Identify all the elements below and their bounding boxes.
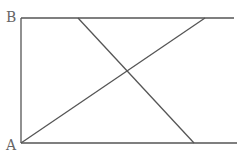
label-b: B [6, 9, 16, 25]
label-a: A [5, 137, 17, 153]
geometry-diagram: B A [0, 0, 244, 153]
